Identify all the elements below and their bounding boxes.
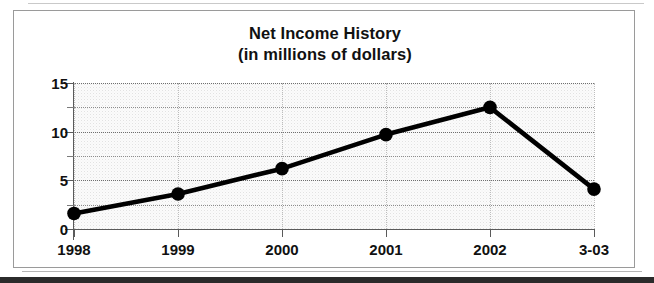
gridline-x-1999 <box>178 83 179 229</box>
gridline-y-7.5 <box>74 156 594 157</box>
x-axis-label-2002: 2002 <box>473 241 506 258</box>
gridline-x-2000 <box>282 83 283 229</box>
y-axis-label-15: 15 <box>34 75 68 92</box>
plot-area <box>74 83 594 229</box>
y-axis-line <box>73 82 74 240</box>
x-tick-2000 <box>282 229 283 237</box>
y-axis-labels: 051015 <box>24 11 68 269</box>
x-tick-2001 <box>386 229 387 237</box>
y-tick-minor-2.5 <box>67 205 74 206</box>
y-axis-label-0: 0 <box>34 221 68 238</box>
scan-artifact-bottom-bar <box>0 277 654 283</box>
x-axis-label-1998: 1998 <box>57 241 90 258</box>
y-tick-minor-7.5 <box>67 156 74 157</box>
gridline-y-2.5 <box>74 205 594 206</box>
x-axis-label-1999: 1999 <box>161 241 194 258</box>
x-tick-1998 <box>74 229 75 237</box>
x-axis-label-2001: 2001 <box>369 241 402 258</box>
gridline-y-5 <box>74 180 594 181</box>
x-axis-label-2000: 2000 <box>265 241 298 258</box>
x-tick-2002 <box>490 229 491 237</box>
x-tick-3-03 <box>594 229 595 237</box>
gridline-x-2002 <box>490 83 491 229</box>
gridline-x-2001 <box>386 83 387 229</box>
chart-figure-frame: Net Income History (in millions of dolla… <box>13 10 635 268</box>
x-axis-line <box>74 229 595 230</box>
gridline-x-1998 <box>74 83 75 229</box>
chart-title: Net Income History <box>14 23 636 44</box>
x-tick-1999 <box>178 229 179 237</box>
y-axis-label-5: 5 <box>34 172 68 189</box>
gridline-y-10 <box>74 132 594 133</box>
scan-artifact-bottom-line <box>22 271 642 272</box>
chart-subtitle: (in millions of dollars) <box>14 44 636 65</box>
x-axis-label-3-03: 3-03 <box>579 241 609 258</box>
gridline-y-12.5 <box>74 107 594 108</box>
gridline-y-15 <box>74 83 594 84</box>
y-axis-label-10: 10 <box>34 123 68 140</box>
scan-artifact-top-line <box>28 3 644 4</box>
y-tick-minor-12.5 <box>67 107 74 108</box>
gridline-x-3-03 <box>594 83 595 229</box>
figure-page: Net Income History (in millions of dolla… <box>0 0 654 283</box>
